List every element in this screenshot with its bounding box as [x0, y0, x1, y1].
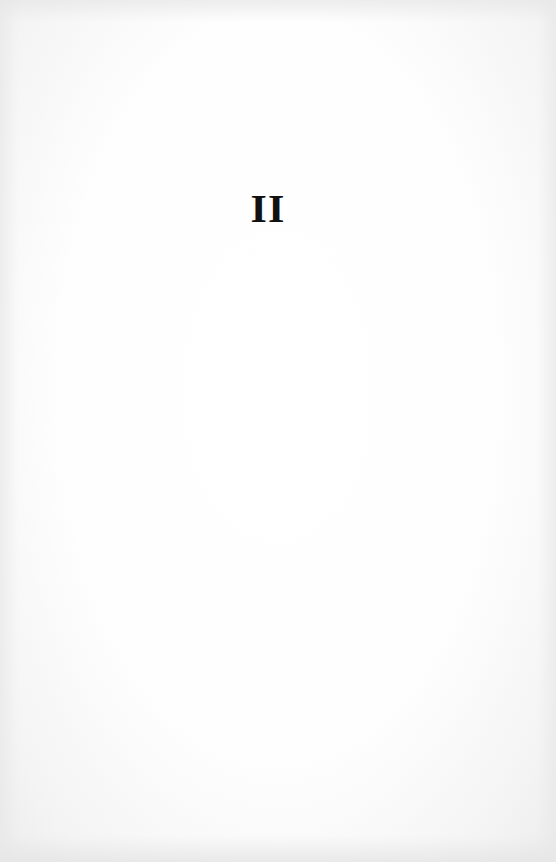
part-number-heading: II [245, 187, 291, 231]
book-page: II [0, 0, 556, 862]
scan-edge-right [538, 0, 556, 862]
scan-edge-bottom [0, 836, 556, 862]
scan-edge-top [0, 0, 556, 22]
scan-edge-left [0, 0, 18, 862]
